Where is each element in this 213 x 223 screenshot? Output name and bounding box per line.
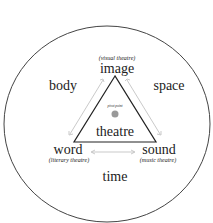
pivot-dot xyxy=(112,111,119,118)
image-label: image xyxy=(100,61,134,77)
diagram-graphics xyxy=(0,0,213,223)
time-label: time xyxy=(103,169,128,185)
sound-label: sound xyxy=(142,142,175,158)
pivot-point-label: pivot point xyxy=(107,104,122,108)
body-label: body xyxy=(49,78,77,94)
space-label: space xyxy=(153,78,184,94)
word-subtitle: (literary theatre) xyxy=(49,157,89,163)
sound-subtitle: (music theatre) xyxy=(140,157,176,163)
theatre-label: theatre xyxy=(96,124,134,140)
word-label: word xyxy=(54,142,83,158)
